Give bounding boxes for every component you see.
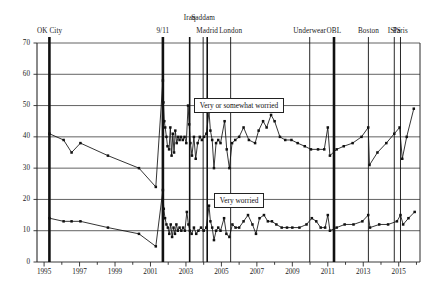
series-marker xyxy=(193,136,196,139)
series-marker xyxy=(310,148,313,151)
series-marker xyxy=(79,220,82,223)
series-marker xyxy=(180,136,183,139)
series-marker xyxy=(335,226,338,229)
ytick-label: 10 xyxy=(0,226,30,234)
series-marker xyxy=(257,129,260,132)
series-marker xyxy=(178,226,181,229)
series-marker xyxy=(184,229,187,232)
series-marker xyxy=(219,229,222,232)
series-marker xyxy=(208,204,211,207)
ytick-label: 70 xyxy=(0,39,30,47)
event-label-ok-city: OK City xyxy=(37,27,62,35)
series-marker xyxy=(177,229,180,232)
series-marker xyxy=(70,220,73,223)
series-marker xyxy=(162,101,165,104)
series-marker xyxy=(248,139,251,142)
xtick-label: 2011 xyxy=(314,268,342,276)
series-marker xyxy=(191,154,194,157)
series-marker xyxy=(324,226,327,229)
series-marker xyxy=(70,151,73,154)
series-marker xyxy=(234,139,237,142)
series-marker xyxy=(62,139,65,142)
series-marker xyxy=(168,148,171,151)
series-marker xyxy=(405,136,408,139)
series-marker xyxy=(180,229,183,232)
series-marker xyxy=(305,223,308,226)
series-marker xyxy=(190,233,193,236)
series-marker xyxy=(155,245,158,248)
xtick-label: 2007 xyxy=(243,268,271,276)
series-marker xyxy=(48,132,51,135)
series-marker xyxy=(280,226,283,229)
series-marker xyxy=(174,129,177,132)
series-marker xyxy=(351,142,354,145)
xtick-label: 2005 xyxy=(207,268,235,276)
series-marker xyxy=(170,154,173,157)
series-marker xyxy=(247,214,250,217)
series-marker xyxy=(175,142,178,145)
series-marker xyxy=(197,229,200,232)
series-marker xyxy=(367,214,370,217)
series-marker xyxy=(138,167,141,170)
series-marker xyxy=(223,120,226,123)
series-marker xyxy=(343,223,346,226)
series-marker xyxy=(267,220,270,223)
series-marker xyxy=(296,142,299,145)
series-marker xyxy=(169,223,172,226)
series-marker xyxy=(107,154,110,157)
series-marker xyxy=(203,136,206,139)
series-marker xyxy=(189,229,192,232)
series-line-0 xyxy=(49,81,413,187)
series-marker xyxy=(177,136,180,139)
series-marker xyxy=(225,148,228,151)
series-marker xyxy=(189,142,192,145)
series-marker xyxy=(107,226,110,229)
series-marker xyxy=(205,132,208,135)
series-marker xyxy=(255,233,257,236)
series-marker xyxy=(228,167,231,170)
series-marker xyxy=(168,233,171,236)
series-marker xyxy=(401,158,404,161)
ytick-label: 0 xyxy=(0,258,30,266)
terrorism-worry-chart: 0102030405060701995199719992001200320052… xyxy=(0,0,433,286)
series-marker xyxy=(171,236,174,239)
series-marker xyxy=(291,226,294,229)
ytick-label: 30 xyxy=(0,164,30,172)
series-marker xyxy=(413,211,416,214)
series-marker xyxy=(360,136,363,139)
series-marker xyxy=(275,223,278,226)
series-marker xyxy=(209,129,212,132)
series-marker xyxy=(215,142,218,145)
series-marker xyxy=(202,229,205,232)
event-label-underwear: Underwear xyxy=(293,27,326,35)
xtick-label: 2013 xyxy=(349,268,377,276)
series-marker xyxy=(304,145,307,148)
series-marker xyxy=(162,189,165,192)
series-marker xyxy=(402,223,405,226)
series-marker xyxy=(187,223,190,226)
event-label-saddam: Saddam xyxy=(191,14,215,22)
series-marker xyxy=(311,217,314,220)
series-marker xyxy=(48,217,51,220)
series-marker xyxy=(234,226,237,229)
xtick-label: 2009 xyxy=(278,268,306,276)
series-marker xyxy=(361,220,364,223)
series-marker xyxy=(200,226,203,229)
series-marker xyxy=(398,126,401,129)
series-marker xyxy=(407,217,410,220)
series-marker xyxy=(163,120,166,123)
series-marker xyxy=(317,148,320,151)
series-marker xyxy=(187,104,190,107)
series-marker xyxy=(378,223,381,226)
series-marker xyxy=(376,151,379,154)
series-marker xyxy=(279,136,282,139)
series-marker xyxy=(211,226,214,229)
series-marker xyxy=(165,223,168,226)
series-marker xyxy=(172,132,175,135)
series-marker xyxy=(367,126,370,129)
series-marker xyxy=(201,139,204,142)
series-label-very-or-somewhat-worried: Very or somewhat worried xyxy=(194,98,285,114)
series-marker xyxy=(219,142,222,145)
series-marker xyxy=(213,167,216,170)
series-marker xyxy=(385,142,388,145)
